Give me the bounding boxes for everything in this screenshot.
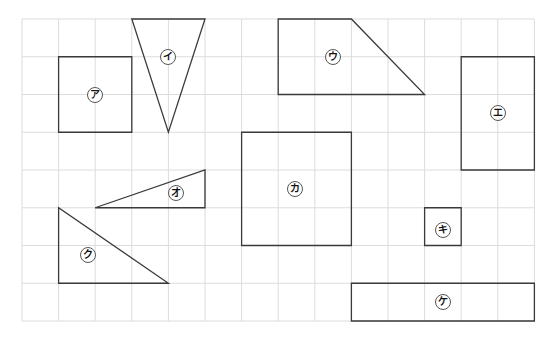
shape-label-u: ウ — [325, 49, 341, 65]
shape-label-ke: ケ — [435, 294, 451, 310]
shape-label-o: オ — [168, 185, 184, 201]
shape-label-a: ア — [87, 87, 103, 103]
shape-label-ku: ク — [80, 247, 96, 263]
shape-triangle-o — [95, 170, 205, 208]
grid-diagram — [0, 0, 556, 342]
shape-label-ka: カ — [287, 181, 303, 197]
